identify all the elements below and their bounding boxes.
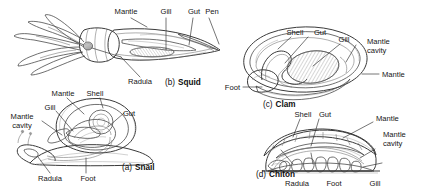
- squid-caption-name: Squid: [178, 78, 201, 87]
- clam-caption: (c)Clam: [263, 100, 296, 109]
- snail-caption: (a)Snail: [122, 163, 155, 172]
- chiton-label-gut: Gut: [319, 110, 332, 119]
- mollusc-body-plans-figure: Mantle Gill Gut Pen Radula (b)Squid: [0, 0, 422, 191]
- squid-label-mantle: Mantle: [115, 7, 138, 16]
- snail-caption-name: Snail: [135, 163, 155, 172]
- chiton-label-foot: Foot: [326, 179, 342, 188]
- clam-caption-prefix: (c): [263, 100, 273, 109]
- chiton-caption-prefix: (d): [256, 170, 266, 179]
- chiton-label-mantle-cavity-2: cavity: [383, 139, 403, 148]
- clam-label-mantle: Mantle: [382, 70, 405, 79]
- chiton-label-radula: Radula: [285, 179, 310, 188]
- snail-label-foot: Foot: [80, 174, 96, 183]
- squid-label-gut: Gut: [188, 7, 201, 16]
- clam-label-mantle-cavity-1: Mantle: [367, 37, 390, 46]
- chiton-label-gill: Gill: [370, 179, 381, 188]
- clam-label-mantle-cavity-2: cavity: [367, 46, 387, 55]
- snail-caption-prefix: (a): [122, 163, 132, 172]
- snail-label-gill: Gill: [45, 103, 56, 112]
- snail-label-shell: Shell: [87, 89, 104, 98]
- squid-label-gill: Gill: [161, 7, 172, 16]
- clam-label-gut: Gut: [314, 28, 327, 37]
- clam-label-gill: Gill: [339, 35, 350, 44]
- snail-label-mantle: Mantle: [52, 89, 75, 98]
- snail-label-radula: Radula: [38, 174, 63, 183]
- squid-caption: (b)Squid: [165, 78, 201, 87]
- squid-label-radula: Radula: [128, 77, 153, 86]
- clam-caption-name: Clam: [276, 100, 296, 109]
- clam-label-foot: Foot: [225, 83, 241, 92]
- chiton-label-shell: Shell: [295, 110, 312, 119]
- chiton-caption-name: Chiton: [269, 170, 295, 179]
- chiton-label-mantle-cavity-1: Mantle: [383, 130, 406, 139]
- chiton-caption: (d)Chiton: [256, 170, 295, 179]
- snail-label-gut: Gut: [123, 109, 136, 118]
- chiton-label-mantle: Mantle: [376, 114, 399, 123]
- squid-label-pen: Pen: [205, 7, 219, 16]
- snail-label-mantle-cavity-2: cavity: [12, 121, 32, 130]
- clam-label-shell: Shell: [287, 28, 304, 37]
- squid-radula-structure: [83, 42, 92, 50]
- squid-caption-prefix: (b): [165, 78, 175, 87]
- snail-label-mantle-cavity-1: Mantle: [11, 112, 34, 121]
